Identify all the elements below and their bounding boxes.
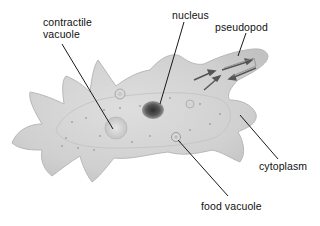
- vacuole-right: [186, 100, 194, 108]
- label-contractile-vacuole: contractile vacuole: [43, 16, 113, 40]
- vacuole-small-core: [118, 92, 122, 96]
- amoeba-diagram: contractile vacuole nucleus pseudopod cy…: [0, 0, 320, 226]
- label-pseudopod: pseudopod: [215, 21, 268, 33]
- nucleus: [142, 101, 164, 119]
- cell-body: [12, 49, 268, 182]
- label-contractile-vacuole-line1: contractile: [43, 16, 113, 28]
- leader-cytoplasm: [240, 115, 278, 159]
- label-contractile-vacuole-line2: vacuole: [43, 28, 113, 40]
- food-vacuole-core: [174, 135, 178, 139]
- label-nucleus: nucleus: [172, 9, 209, 21]
- label-cytoplasm: cytoplasm: [259, 160, 307, 172]
- label-food-vacuole: food vacuole: [201, 200, 262, 212]
